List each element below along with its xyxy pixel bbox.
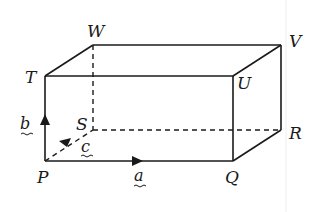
vector-b-arrowhead-icon (40, 114, 50, 125)
vector-a-arrowhead-icon (132, 156, 143, 166)
edge-UV (233, 45, 281, 76)
edge-QR (233, 130, 281, 161)
vertex-label-U: U (237, 73, 252, 93)
vertex-label-V: V (289, 31, 303, 51)
diagram-canvas: W T V U S R P Q b c a (0, 0, 318, 212)
edge-TW (45, 45, 93, 76)
vertex-label-Q: Q (225, 167, 239, 187)
vertex-label-S: S (76, 114, 88, 134)
vertex-label-P: P (36, 167, 49, 187)
vector-label-a: a (134, 166, 144, 185)
vertex-label-T: T (25, 67, 38, 87)
tilde-a-icon (134, 185, 146, 187)
vertex-label-R: R (288, 123, 302, 143)
vertex-label-W: W (87, 21, 106, 41)
vector-label-c: c (81, 137, 90, 156)
tilde-b-icon (21, 133, 33, 135)
cuboid-diagram: W T V U S R P Q b c a (0, 0, 318, 212)
vector-label-b: b (20, 114, 30, 133)
